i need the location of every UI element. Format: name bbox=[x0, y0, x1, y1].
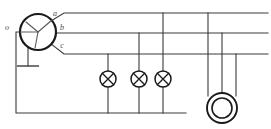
label-neutral-o: o bbox=[5, 23, 9, 32]
motor-branch bbox=[207, 13, 237, 123]
phase-a-bus-line bbox=[51, 13, 268, 21]
circuit-diagram: o a b c bbox=[0, 0, 271, 129]
label-phase-a: a bbox=[53, 9, 57, 18]
schematic-canvas: o a b c bbox=[0, 0, 271, 129]
phase-c-bus-line bbox=[51, 44, 268, 54]
lamp-branch-1 bbox=[100, 54, 116, 113]
lamp-branch-2 bbox=[131, 33, 147, 113]
lamp-branch-3 bbox=[155, 13, 171, 113]
label-phase-b: b bbox=[60, 23, 64, 32]
generator-symbol-group bbox=[20, 14, 56, 50]
motor-icon-inner-ring bbox=[212, 98, 232, 118]
phase-bus-group bbox=[51, 13, 268, 54]
label-phase-c: c bbox=[60, 41, 64, 50]
